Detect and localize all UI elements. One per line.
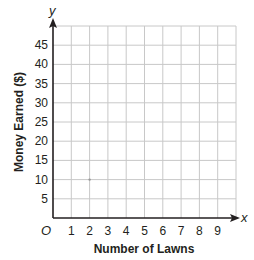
y-tick-label: 20: [35, 134, 49, 148]
grid-lines: [53, 26, 236, 218]
origin-label: O: [41, 223, 51, 238]
y-tick-label: 10: [35, 173, 49, 187]
y-tick-label: 40: [35, 57, 49, 71]
x-tick-label: 1: [68, 224, 75, 238]
x-tick-label: 6: [159, 224, 166, 238]
x-tick-label: 9: [214, 224, 221, 238]
y-axis-title: Money Earned ($): [12, 72, 26, 172]
x-tick-label: 3: [105, 224, 112, 238]
x-tick-label: 5: [141, 224, 148, 238]
x-tick-label: 7: [178, 224, 185, 238]
y-tick-label: 5: [41, 192, 48, 206]
x-tick-label: 2: [86, 224, 93, 238]
x-tick-label: 8: [196, 224, 203, 238]
coordinate-grid: 123456789 51015202530354045 O x y Number…: [0, 0, 254, 260]
y-tick-labels: 51015202530354045: [35, 38, 49, 206]
x-tick-labels: 123456789: [68, 224, 221, 238]
x-axis-title: Number of Lawns: [94, 242, 195, 256]
x-variable-label: x: [240, 210, 248, 225]
y-tick-label: 15: [35, 153, 49, 167]
data-point: [88, 178, 90, 180]
y-variable-label: y: [48, 3, 57, 18]
x-tick-label: 4: [123, 224, 130, 238]
y-tick-label: 30: [35, 96, 49, 110]
data-points: [88, 178, 90, 180]
y-tick-label: 25: [35, 115, 49, 129]
y-tick-label: 35: [35, 77, 49, 91]
y-tick-label: 45: [35, 38, 49, 52]
